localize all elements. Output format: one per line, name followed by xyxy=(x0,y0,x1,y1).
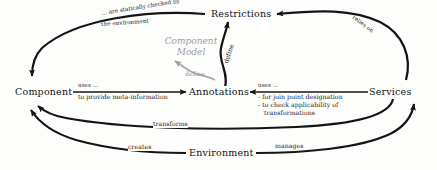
edge-label-transforms: transforms xyxy=(153,120,188,128)
node-services[interactable]: Services xyxy=(368,86,413,97)
edge-label-provide-meta-information: to provide meta-information xyxy=(78,93,168,101)
edge-label-transformations: transformations xyxy=(264,109,315,117)
edge-label-creates: creates xyxy=(128,143,151,151)
edge-label-uses-component: uses ... xyxy=(78,82,98,89)
node-component[interactable]: Component xyxy=(14,86,73,97)
edge-label-uses-services: uses ... xyxy=(258,82,278,89)
component-model-line1: Component xyxy=(165,36,218,46)
diagram-canvas: Component Annotations Restrictions Servi… xyxy=(0,0,437,170)
edge-label-join-point-designation: - for join point designation xyxy=(258,93,343,101)
edge-label-define-component-model: define xyxy=(185,70,205,78)
edge-services-to-restrictions xyxy=(277,11,408,80)
node-annotations[interactable]: Annotations xyxy=(188,86,250,97)
component-model-note: Component Model xyxy=(150,36,232,58)
edge-label-manages: manages xyxy=(275,142,303,150)
edge-services-to-component xyxy=(38,99,393,129)
edge-label-check-applicability: - to check applicability of xyxy=(258,101,338,109)
node-environment[interactable]: Environment xyxy=(188,147,255,158)
node-restrictions[interactable]: Restrictions xyxy=(210,8,272,19)
edge-environment-to-component xyxy=(31,110,186,153)
component-model-line2: Model xyxy=(177,47,206,57)
